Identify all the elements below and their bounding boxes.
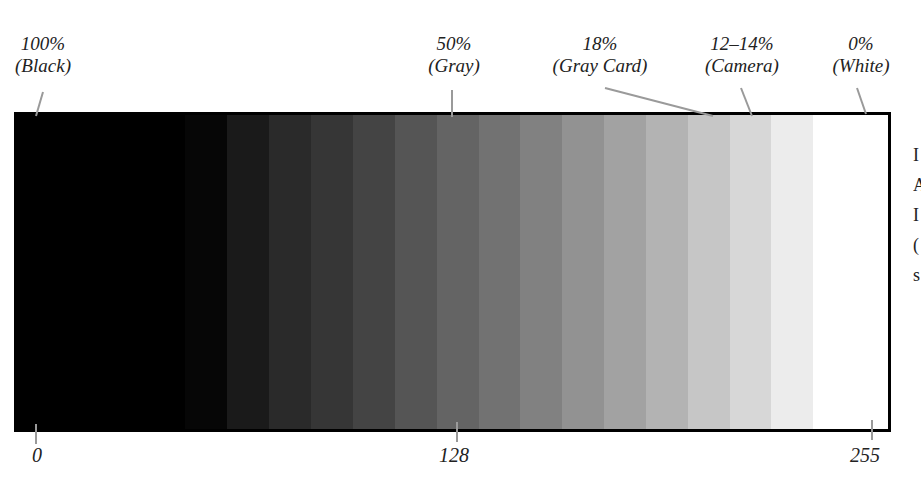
gray-step-band	[17, 115, 185, 429]
gray-step-band	[395, 115, 437, 429]
gray-step-band	[311, 115, 353, 429]
gray-step-band	[646, 115, 688, 429]
cut-off-side-text: I A I ( s	[913, 140, 921, 290]
gray-step-band	[562, 115, 604, 429]
tick-label-0: 0	[32, 444, 42, 467]
gray-step-band	[520, 115, 562, 429]
gray-step-band	[771, 115, 813, 429]
gray-step-band	[688, 115, 730, 429]
label-gray: 50% (Gray)	[414, 33, 494, 77]
tick-label-128: 128	[439, 444, 469, 467]
label-gray-card: 18% (Gray Card)	[540, 33, 660, 77]
gray-step-band	[479, 115, 520, 429]
gray-step-band	[227, 115, 269, 429]
grayscale-step-wedge	[14, 112, 891, 432]
gray-step-band	[437, 115, 479, 429]
gray-step-band	[604, 115, 646, 429]
label-black: 100% (Black)	[8, 33, 78, 77]
tick-label-255: 255	[850, 444, 880, 467]
gray-step-band	[730, 115, 771, 429]
gray-step-band	[269, 115, 311, 429]
gray-step-band	[185, 115, 227, 429]
label-white: 0% (White)	[816, 33, 906, 77]
gray-step-band	[353, 115, 395, 429]
gray-step-band	[813, 115, 888, 429]
label-camera: 12–14% (Camera)	[692, 33, 792, 77]
